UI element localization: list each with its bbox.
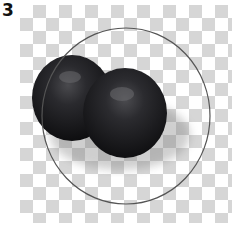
right-sphere-highlight bbox=[110, 87, 134, 101]
scene bbox=[0, 0, 235, 225]
left-sphere-highlight bbox=[59, 71, 81, 83]
right-sphere bbox=[83, 68, 167, 158]
